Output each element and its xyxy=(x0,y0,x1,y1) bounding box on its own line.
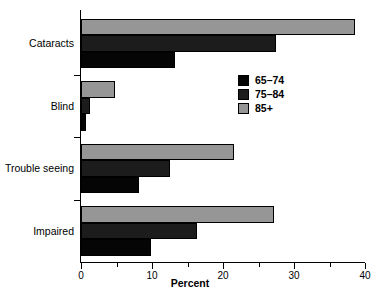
bar xyxy=(81,114,86,131)
x-axis-title: Percent xyxy=(0,277,380,289)
bar xyxy=(81,239,151,256)
bar xyxy=(81,52,175,69)
legend: 65–7475–8485+ xyxy=(238,74,284,116)
legend-item: 65–74 xyxy=(238,74,284,87)
x-tick-major xyxy=(223,263,224,269)
category-label: Blind xyxy=(51,100,74,112)
bar xyxy=(81,177,139,194)
bar xyxy=(81,19,355,36)
x-tick-major xyxy=(365,263,366,269)
y-tick xyxy=(74,137,80,138)
bar xyxy=(81,98,90,115)
legend-label: 85+ xyxy=(255,103,273,114)
category-label: Cataracts xyxy=(29,37,74,49)
bar xyxy=(81,206,274,223)
x-tick-minor xyxy=(117,263,118,267)
y-tick xyxy=(74,200,80,201)
bar xyxy=(81,223,197,240)
legend-swatch xyxy=(238,103,249,114)
bar xyxy=(81,35,276,52)
category-label: Impaired xyxy=(33,225,74,237)
legend-swatch xyxy=(238,89,249,100)
x-tick-major xyxy=(81,263,82,269)
x-tick-major xyxy=(294,263,295,269)
x-tick-minor xyxy=(259,263,260,267)
y-tick xyxy=(74,75,80,76)
bar xyxy=(81,160,170,177)
legend-label: 65–74 xyxy=(255,75,284,86)
legend-item: 75–84 xyxy=(238,88,284,101)
bar-chart: 010203040 CataractsBlindTrouble seeingIm… xyxy=(0,0,380,297)
legend-swatch xyxy=(238,75,249,86)
bar xyxy=(81,144,234,161)
x-tick-minor xyxy=(188,263,189,267)
x-tick-minor xyxy=(330,263,331,267)
x-tick-major xyxy=(152,263,153,269)
category-label: Trouble seeing xyxy=(5,162,74,174)
legend-item: 85+ xyxy=(238,102,284,115)
legend-label: 75–84 xyxy=(255,89,284,100)
bar xyxy=(81,81,115,98)
